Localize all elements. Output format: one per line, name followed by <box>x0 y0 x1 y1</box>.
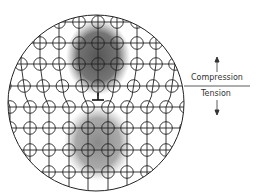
atom-circle <box>160 166 173 179</box>
atom-circle <box>188 58 201 71</box>
atom-circle <box>180 166 193 179</box>
atom-circle <box>15 16 28 29</box>
tension-region <box>64 105 132 181</box>
atom-circle <box>169 37 182 50</box>
atom-circle <box>15 37 28 50</box>
atom-circle <box>0 16 8 29</box>
atom-circle <box>4 144 17 157</box>
down-arrow <box>215 100 219 115</box>
up-arrow <box>215 57 219 72</box>
atom-circle <box>188 37 201 50</box>
atom-circle <box>0 58 8 71</box>
compression-label: Compression <box>191 73 243 82</box>
atom-circle <box>169 16 182 29</box>
atom-circle <box>0 37 8 50</box>
atom-circle <box>4 166 17 179</box>
atom-circle <box>150 16 163 29</box>
atom-circle <box>180 144 193 157</box>
tension-label: Tension <box>201 89 231 98</box>
atom-circle <box>34 16 47 29</box>
atom-circle <box>188 16 201 29</box>
atom-circle <box>24 166 37 179</box>
